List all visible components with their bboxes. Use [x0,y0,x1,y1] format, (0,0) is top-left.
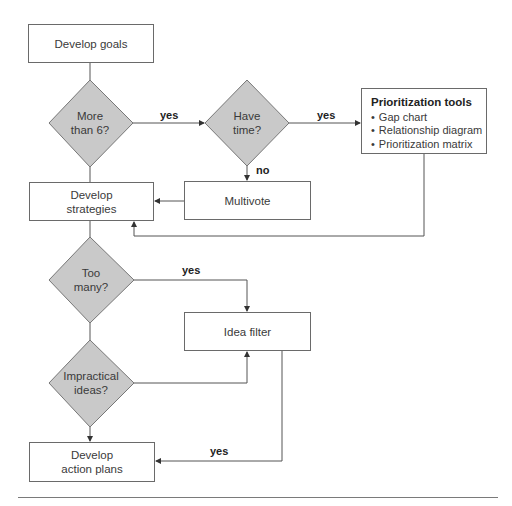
multivote-box: Multivote [184,181,311,220]
prioritization-tools-box: Prioritization tools Gap chart Relations… [361,88,487,154]
bottom-rule [18,497,498,498]
develop-goals-label: Develop goals [55,37,128,51]
develop-goals-box: Develop goals [28,24,154,63]
have-time-label: Have time? [233,109,261,137]
idea-filter-label: Idea filter [224,325,271,339]
edge-label-yes: yes [160,109,178,121]
tool-item: Prioritization matrix [371,138,486,152]
tool-item: Relationship diagram [371,124,486,138]
edge-label-yes: yes [317,109,335,121]
prioritization-tools-title: Prioritization tools [371,96,486,110]
flowchart-connectors [0,0,512,506]
develop-action-plans-box: Develop action plans [29,442,155,482]
edge-label-yes: yes [182,264,200,276]
multivote-label: Multivote [224,194,270,208]
idea-filter-box: Idea filter [184,312,311,351]
develop-strategies-box: Develop strategies [29,182,154,221]
edge-label-no: no [256,164,269,176]
prioritization-tools-list: Gap chart Relationship diagram Prioritiz… [371,111,486,152]
impractical-ideas-label: Impractical ideas? [63,369,119,397]
tool-item: Gap chart [371,111,486,125]
more-than-6-label: More than 6? [71,109,109,137]
edge-label-yes: yes [210,445,228,457]
too-many-label: Too many? [74,266,109,294]
